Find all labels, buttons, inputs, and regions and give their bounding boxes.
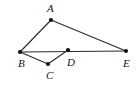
vertex-point-E (124, 49, 128, 53)
vertex-point-D (66, 48, 70, 52)
vertex-label-A: A (47, 3, 54, 14)
vertex-label-C: C (46, 70, 53, 81)
vertex-label-B: B (18, 58, 25, 69)
geometry-figure: A B C D E (0, 0, 137, 89)
segment-BE (20, 51, 126, 52)
vertex-label-D: D (67, 57, 75, 68)
geometry-canvas (0, 0, 137, 89)
vertex-label-E: E (123, 58, 130, 69)
vertex-point-A (49, 18, 53, 22)
segment-AB (20, 20, 51, 52)
segment-AE (51, 20, 126, 51)
vertex-point-C (46, 62, 50, 66)
vertex-point-B (18, 50, 22, 54)
